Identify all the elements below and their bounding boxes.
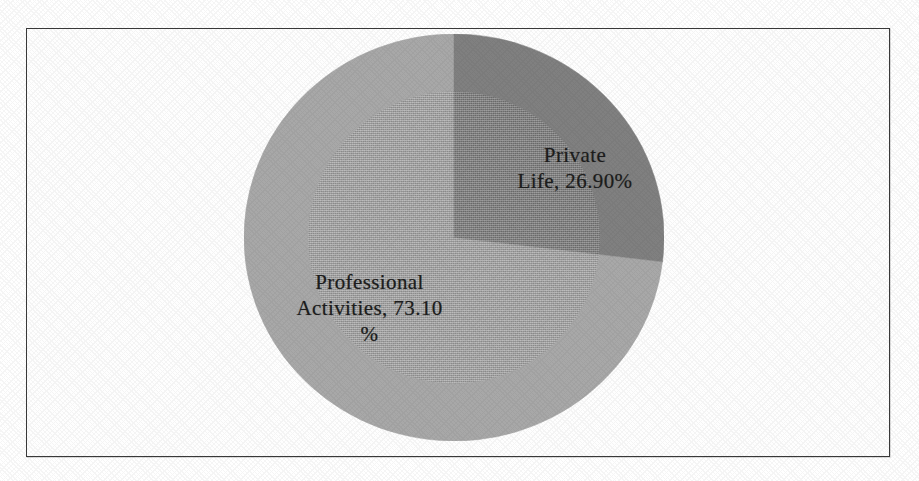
- pie-svg: [244, 34, 664, 441]
- pie-slice-label-private-life: Private Life, 26.90%: [495, 142, 655, 194]
- plot-area: Private Life, 26.90% Professional Activi…: [27, 29, 889, 456]
- scanned-page: Private Life, 26.90% Professional Activi…: [0, 0, 919, 481]
- chart-frame: Private Life, 26.90% Professional Activi…: [26, 28, 890, 457]
- pie-chart: [244, 34, 664, 441]
- pie-slice-label-professional-activities: Professional Activities, 73.10 %: [272, 269, 467, 347]
